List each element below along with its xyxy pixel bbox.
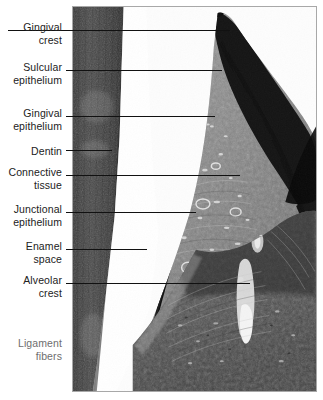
micrograph-svg [73,7,316,391]
label-connective-tissue: Connective tissue [0,166,62,191]
label-gingival-crest: Gingival crest [0,21,62,46]
film-grain-overlay [73,7,316,391]
label-dentin: Dentin [0,145,62,158]
label-sulcular-epithelium: Sulcular epithelium [0,61,62,86]
label-ligament-fibers: Ligament fibers [0,337,62,362]
leader-line-enamel-space [66,249,147,250]
leader-line-gingival-epithelium [66,116,215,117]
leader-line-junctional-epithelium [66,212,196,213]
histology-figure: Gingival crest Sulcular epithelium Gingi… [0,0,323,400]
leader-line-connective-tissue [66,175,240,176]
leader-line-sulcular-epithelium [66,70,222,71]
leader-line-dentin [66,150,112,151]
label-enamel-space: Enamel space [0,240,62,265]
leader-line-alveolar-crest [66,283,250,284]
label-gingival-epithelium: Gingival epithelium [0,107,62,132]
micrograph-image [72,6,317,392]
label-junctional-epithelium: Junctional epithelium [0,203,62,228]
label-alveolar-crest: Alveolar crest [0,274,62,299]
